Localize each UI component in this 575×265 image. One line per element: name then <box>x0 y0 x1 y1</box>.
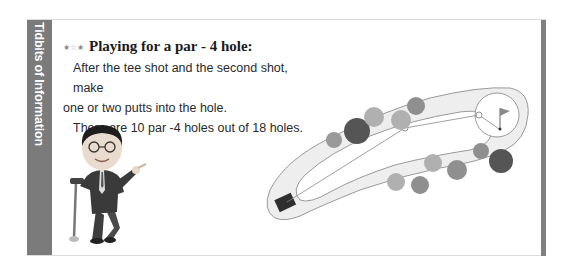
right-edge-bar <box>541 20 546 256</box>
sidebar-label: Tidbits of Information <box>32 22 46 146</box>
section-title: Playing for a par - 4 hole: <box>89 38 253 55</box>
bottom-border <box>27 255 546 256</box>
three-stars-icon: ★☆★ <box>63 43 84 52</box>
golfer-caricature-illustration <box>62 120 152 245</box>
hole-cup <box>499 128 502 131</box>
top-border <box>27 19 546 20</box>
aim-point-2 <box>476 112 482 118</box>
par-4-course-diagram <box>265 85 535 225</box>
section-heading: ★☆★ Playing for a par - 4 hole: <box>63 38 253 55</box>
